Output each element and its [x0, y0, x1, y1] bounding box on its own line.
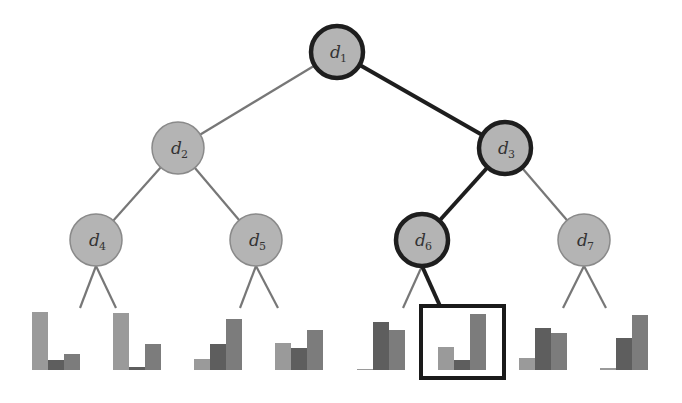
leaf-histogram-7	[519, 328, 567, 370]
leaf-histogram-8	[600, 315, 648, 370]
leaf-edge-5	[403, 266, 422, 308]
histogram-bar	[551, 333, 567, 370]
node-d3: d3	[479, 122, 531, 174]
histogram-bar	[307, 330, 323, 370]
leaf-edges	[80, 266, 606, 308]
leaf-edge-1	[80, 266, 96, 308]
leaf-edge-7	[563, 266, 584, 308]
edge-d1-d3	[337, 52, 505, 148]
histogram-bar	[519, 358, 535, 370]
leaf-edge-8	[584, 266, 606, 308]
histogram-bar	[210, 344, 226, 370]
leaf-histograms	[32, 306, 648, 378]
histogram-bar	[64, 354, 80, 370]
node-label-subscript: 2	[181, 148, 188, 161]
leaf-edge-3	[240, 266, 256, 308]
node-d6: d6	[396, 214, 448, 266]
histogram-bar	[194, 359, 210, 370]
node-label-subscript: 1	[340, 52, 347, 65]
histogram-bar	[632, 315, 648, 370]
node-d2: d2	[152, 122, 204, 174]
node-label-subscript: 5	[259, 240, 266, 253]
leaf-histogram-4	[275, 330, 323, 370]
leaf-edge-2	[96, 266, 116, 308]
histogram-bar	[275, 343, 291, 370]
leaf-histogram-6	[438, 314, 486, 370]
histogram-bar	[389, 330, 405, 370]
node-d5: d5	[230, 214, 282, 266]
histogram-bar	[113, 313, 129, 370]
histogram-bar	[470, 314, 486, 370]
node-d1: d1	[311, 26, 363, 78]
histogram-bar	[357, 369, 373, 370]
leaf-histogram-3	[194, 319, 242, 370]
decision-tree-diagram: d1d2d3d4d5d6d7	[0, 0, 682, 403]
node-d4: d4	[70, 214, 122, 266]
leaf-edge-4	[256, 266, 278, 308]
histogram-bar	[291, 348, 307, 370]
histogram-bar	[48, 360, 64, 370]
histogram-bar	[616, 338, 632, 370]
histogram-bar	[226, 319, 242, 370]
node-label-subscript: 6	[425, 240, 432, 253]
histogram-bar	[438, 347, 454, 370]
tree-nodes: d1d2d3d4d5d6d7	[70, 26, 610, 266]
node-d7: d7	[558, 214, 610, 266]
node-label-subscript: 7	[587, 240, 594, 253]
histogram-bar	[454, 360, 470, 370]
leaf-histogram-5	[357, 322, 405, 370]
leaf-histogram-1	[32, 312, 80, 370]
histogram-bar	[535, 328, 551, 370]
node-label-subscript: 4	[99, 240, 106, 253]
histogram-bar	[129, 367, 145, 370]
leaf-edge-6	[422, 266, 440, 306]
histogram-bar	[32, 312, 48, 370]
histogram-bar	[145, 344, 161, 370]
node-label-subscript: 3	[508, 148, 515, 161]
histogram-bar	[373, 322, 389, 370]
histogram-bar	[600, 368, 616, 370]
leaf-histogram-2	[113, 313, 161, 370]
